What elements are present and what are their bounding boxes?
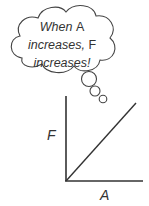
bubble-line-1: When: [40, 20, 73, 34]
thought-bubble-text: When A increases, F increases!: [14, 18, 110, 72]
bubble-line-2: increases,: [28, 38, 85, 52]
thought-bubble-tail-circles: [82, 72, 107, 103]
linear-trend-line: [66, 103, 136, 181]
x-axis-label: A: [100, 187, 109, 203]
bubble-line-3: increases!: [34, 56, 91, 70]
bubble-var-a: A: [76, 20, 84, 34]
bubble-var-f: F: [88, 38, 96, 52]
y-axis-label: F: [47, 127, 56, 143]
